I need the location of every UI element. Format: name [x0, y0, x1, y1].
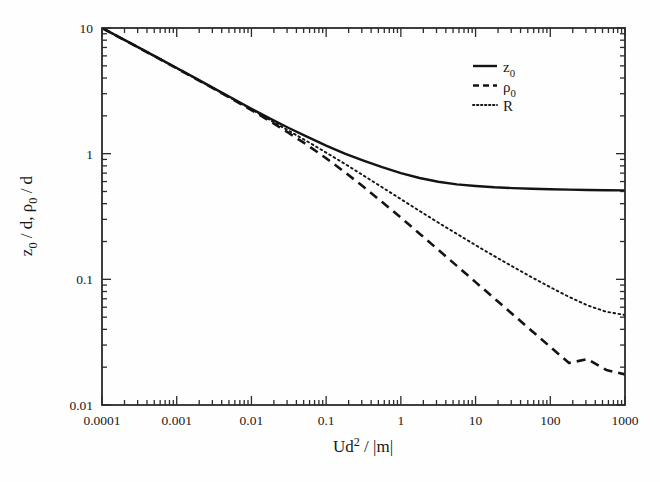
- y-tick-label: 0.1: [76, 272, 93, 287]
- x-tick-label: 0.1: [318, 413, 335, 428]
- x-tick-label: 10: [469, 413, 483, 428]
- legend-label-3: R: [503, 98, 513, 114]
- x-tick-label: 0.01: [240, 413, 264, 428]
- y-tick-label: 0.01: [69, 398, 93, 413]
- x-tick-label: 0.001: [162, 413, 192, 428]
- svg-text:Ud2 / |m|: Ud2 / |m|: [333, 435, 393, 456]
- plot-background: [0, 0, 660, 482]
- x-tick-label: 0.0001: [83, 413, 120, 428]
- y-tick-label: 10: [80, 21, 94, 36]
- x-axis-label: Ud2 / |m|: [333, 435, 393, 456]
- x-tick-label: 1000: [612, 413, 639, 428]
- x-tick-label: 1: [397, 413, 404, 428]
- x-tick-label: 100: [540, 413, 561, 428]
- log-log-plot: 0.00010.0010.010.11101001000 0.010.1110 …: [0, 0, 660, 482]
- y-tick-label: 1: [86, 147, 93, 162]
- figure-container: 0.00010.0010.010.11101001000 0.010.1110 …: [0, 0, 660, 482]
